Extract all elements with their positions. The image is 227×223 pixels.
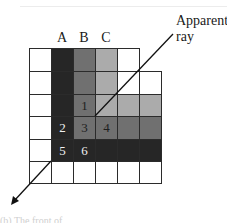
apparent-ray-label: Apparent ray [176, 13, 227, 45]
figure-caption: (b) The front of [0, 215, 62, 223]
ray-label-line-1: Apparent [176, 13, 227, 29]
ray-label-line-2: ray [176, 29, 227, 45]
